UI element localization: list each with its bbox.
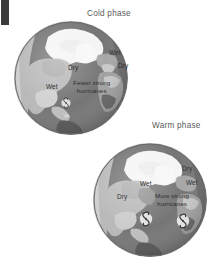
cold-phase-caption: Cold phase — [87, 9, 131, 18]
page-edge-bar — [1, 0, 9, 25]
label-wet-atlantic-east-cold: Wet — [109, 49, 121, 57]
label-dry-africa-warm: Dry — [182, 165, 192, 173]
label-more-strong-hurricanes: More strong hurricanes — [155, 192, 189, 207]
label-wet-caribbean-warm: Wet — [140, 180, 152, 188]
globe-warm-phase — [93, 143, 207, 257]
label-dry-africa-cold: Dry — [118, 62, 128, 70]
label-fewer-strong-hurricanes: Fewer strong hurricanes — [73, 79, 110, 94]
label-dry-north-america-warm: Dry — [117, 193, 127, 201]
warm-phase-caption: Warm phase — [152, 121, 201, 130]
climate-phase-figure: Cold phase — [0, 0, 216, 267]
label-wet-north-america-cold: Wet — [46, 83, 58, 91]
label-dry-caribbean-cold: Dry — [68, 64, 78, 72]
globe-cold-phase — [14, 21, 128, 135]
label-wet-atlantic-east-warm: Wet — [186, 179, 198, 187]
